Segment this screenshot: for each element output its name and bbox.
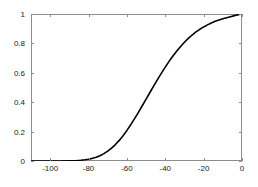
y-tickmark — [31, 161, 34, 162]
x-tickmark — [165, 158, 166, 161]
x-tickmark — [127, 158, 128, 161]
x-tickmark — [127, 14, 128, 17]
y-tick-label: 0 — [21, 157, 25, 166]
x-tick-label: 0 — [240, 164, 244, 173]
y-tickmark — [31, 132, 34, 133]
x-tickmark — [89, 14, 90, 17]
y-tickmark — [239, 14, 242, 15]
x-tickmark — [165, 14, 166, 17]
y-tick-label: 0.2 — [14, 127, 25, 136]
y-tickmark — [239, 161, 242, 162]
y-tickmark — [239, 102, 242, 103]
chart-figure: -100-80-60-40-200 00.20.40.60.81 — [0, 0, 258, 187]
plot-area — [31, 14, 242, 161]
x-tick-label: -40 — [159, 164, 171, 173]
y-tickmark — [31, 43, 34, 44]
y-tick-label: 0.6 — [14, 68, 25, 77]
x-tickmark — [242, 14, 243, 17]
x-tick-label: -80 — [83, 164, 95, 173]
y-tickmark — [239, 132, 242, 133]
x-tick-label: -60 — [121, 164, 133, 173]
x-tick-label: -20 — [198, 164, 210, 173]
y-tickmark — [239, 73, 242, 74]
x-tickmark — [50, 14, 51, 17]
x-tickmark — [89, 158, 90, 161]
y-tick-label: 1 — [21, 10, 25, 19]
x-tickmark — [204, 14, 205, 17]
cdf-curve — [31, 14, 242, 161]
x-tickmark — [204, 158, 205, 161]
y-tickmark — [31, 73, 34, 74]
y-tick-label: 0.4 — [14, 98, 25, 107]
y-tickmark — [31, 14, 34, 15]
x-tickmark — [50, 158, 51, 161]
x-tick-label: -100 — [42, 164, 58, 173]
y-tickmark — [31, 102, 34, 103]
y-tickmark — [239, 43, 242, 44]
x-tickmark — [242, 158, 243, 161]
y-tick-label: 0.8 — [14, 39, 25, 48]
